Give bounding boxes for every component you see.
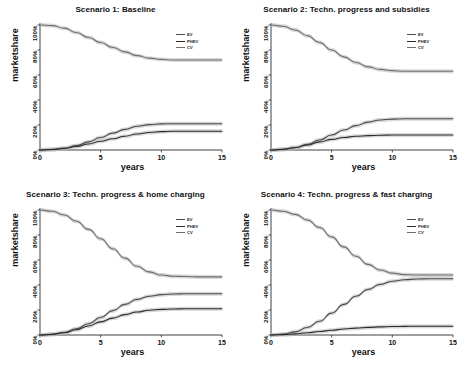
legend-item-cv: CV — [176, 230, 198, 235]
legend: EVPHEVCV — [407, 217, 429, 235]
y-tick-label: 40% — [31, 286, 38, 310]
x-tick-label: 10 — [151, 154, 171, 161]
legend-swatch-ev — [407, 34, 416, 35]
x-tick-label: 15 — [443, 154, 462, 161]
x-tick-label: 10 — [382, 339, 402, 346]
y-tick-label: 100% — [31, 26, 38, 50]
x-tick-label: 15 — [212, 154, 232, 161]
y-tick-label: 80% — [262, 236, 269, 260]
chart-panel-3: Scenario 3: Techn. progress & home charg… — [0, 185, 231, 370]
x-tick-label: 10 — [151, 339, 171, 346]
x-tick-label: 0 — [261, 154, 281, 161]
x-axis-label: years — [40, 162, 225, 172]
legend-label: CV — [187, 45, 193, 50]
y-tick-label: 20% — [262, 126, 269, 150]
y-tick-label: 100% — [262, 211, 269, 235]
y-axis-label: marketshare — [241, 20, 251, 90]
x-tick-label: 5 — [91, 339, 111, 346]
y-tick-label: 40% — [262, 286, 269, 310]
legend-label: CV — [418, 45, 424, 50]
legend-item-ev: EV — [407, 217, 429, 222]
y-axis-label: marketshare — [241, 205, 251, 275]
legend-label: EV — [418, 32, 423, 37]
legend: EVPHEVCV — [407, 32, 429, 50]
legend-item-phev: PHEV — [407, 224, 429, 229]
legend-swatch-phev — [407, 226, 416, 227]
x-tick-label: 5 — [322, 154, 342, 161]
legend-item-cv: CV — [176, 45, 198, 50]
x-axis-label: years — [271, 162, 456, 172]
legend-label: PHEV — [187, 224, 198, 229]
chart-panel-2: Scenario 2: Techn. progress and subsidie… — [231, 0, 462, 185]
figure-panel-grid: Scenario 1: Baselinemarketshare0%20%40%6… — [0, 0, 462, 370]
y-tick-label: 60% — [262, 76, 269, 100]
legend-swatch-cv — [176, 47, 185, 48]
y-axis-label: marketshare — [10, 20, 20, 90]
x-tick-label: 0 — [261, 339, 281, 346]
chart-panel-4: Scenario 4: Techn. progress & fast charg… — [231, 185, 462, 370]
legend-swatch-ev — [407, 219, 416, 220]
legend-swatch-ev — [176, 34, 185, 35]
x-axis-label: years — [40, 347, 225, 357]
x-tick-label: 15 — [212, 339, 232, 346]
legend-label: CV — [187, 230, 193, 235]
legend-item-ev: EV — [176, 217, 198, 222]
legend-swatch-phev — [176, 226, 185, 227]
y-tick-label: 100% — [262, 26, 269, 50]
y-tick-label: 100% — [31, 211, 38, 235]
y-tick-label: 60% — [31, 76, 38, 100]
y-tick-label: 60% — [262, 261, 269, 285]
legend-swatch-phev — [407, 41, 416, 42]
legend-swatch-cv — [176, 232, 185, 233]
y-tick-label: 20% — [31, 126, 38, 150]
x-tick-label: 0 — [30, 339, 50, 346]
x-tick-label: 15 — [443, 339, 462, 346]
legend-label: PHEV — [187, 39, 198, 44]
legend: EVPHEVCV — [176, 217, 198, 235]
legend-item-phev: PHEV — [407, 39, 429, 44]
legend-item-phev: PHEV — [176, 39, 198, 44]
y-tick-label: 20% — [31, 311, 38, 335]
y-tick-label: 60% — [31, 261, 38, 285]
x-tick-label: 5 — [91, 154, 111, 161]
legend-swatch-ev — [176, 219, 185, 220]
legend: EVPHEVCV — [176, 32, 198, 50]
y-axis-label: marketshare — [10, 205, 20, 275]
legend-label: PHEV — [418, 39, 429, 44]
legend-label: EV — [187, 32, 192, 37]
y-tick-label: 80% — [31, 236, 38, 260]
legend-item-ev: EV — [176, 32, 198, 37]
legend-item-cv: CV — [407, 45, 429, 50]
x-tick-label: 0 — [30, 154, 50, 161]
legend-label: EV — [187, 217, 192, 222]
legend-item-ev: EV — [407, 32, 429, 37]
x-tick-label: 5 — [322, 339, 342, 346]
y-tick-label: 80% — [262, 51, 269, 75]
legend-label: CV — [418, 230, 424, 235]
y-tick-label: 20% — [262, 311, 269, 335]
legend-item-cv: CV — [407, 230, 429, 235]
chart-panel-1: Scenario 1: Baselinemarketshare0%20%40%6… — [0, 0, 231, 185]
legend-label: EV — [418, 217, 423, 222]
legend-swatch-phev — [176, 41, 185, 42]
x-axis-label: years — [271, 347, 456, 357]
y-tick-label: 40% — [31, 101, 38, 125]
legend-item-phev: PHEV — [176, 224, 198, 229]
y-tick-label: 40% — [262, 101, 269, 125]
y-tick-label: 80% — [31, 51, 38, 75]
legend-swatch-cv — [407, 232, 416, 233]
legend-swatch-cv — [407, 47, 416, 48]
x-tick-label: 10 — [382, 154, 402, 161]
legend-label: PHEV — [418, 224, 429, 229]
